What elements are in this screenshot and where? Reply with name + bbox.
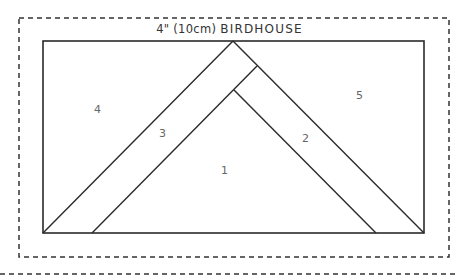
piece-label-4: 4 [94, 103, 101, 116]
title-name: BIRDHOUSE [220, 22, 303, 36]
roof-right-inner [234, 90, 376, 233]
title-size: 4" (10cm) [156, 22, 216, 36]
piece-label-2: 2 [302, 132, 309, 145]
block-outline [43, 41, 424, 233]
roof-left-outer [43, 41, 233, 233]
roof-left-inner [92, 66, 257, 233]
seam-allowance-border [19, 18, 449, 257]
roof-right-outer [233, 41, 424, 233]
diagram-title: 4" (10cm) BIRDHOUSE [0, 22, 459, 36]
piece-label-1: 1 [221, 164, 228, 177]
pattern-diagram [0, 0, 459, 275]
piece-label-5: 5 [356, 89, 363, 102]
piece-label-3: 3 [159, 127, 166, 140]
